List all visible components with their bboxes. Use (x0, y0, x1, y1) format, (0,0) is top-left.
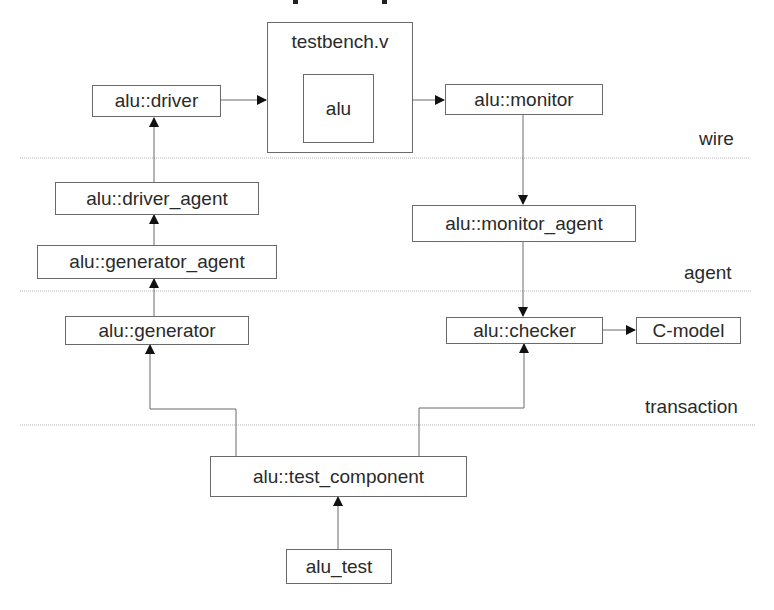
edge-testcomponent-generator (150, 345, 236, 456)
driver-agent-box: alu::driver_agent (55, 182, 259, 215)
edge-testcomponent-checker (419, 344, 524, 456)
c-model-label: C-model (653, 320, 725, 342)
generator-agent-box: alu::generator_agent (37, 245, 277, 279)
generator-box: alu::generator (65, 316, 249, 345)
checker-box: alu::checker (446, 317, 603, 344)
alu-test-box: alu_test (286, 549, 392, 584)
alu-label: alu (326, 98, 351, 120)
layer-label-transaction: transaction (645, 396, 738, 418)
test-component-label: alu::test_component (253, 466, 424, 488)
layer-label-agent: agent (684, 262, 732, 284)
monitor-agent-box: alu::monitor_agent (412, 205, 636, 242)
layer-label-wire: wire (699, 128, 734, 150)
driver-box: alu::driver (92, 85, 221, 117)
driver-label: alu::driver (115, 90, 198, 112)
c-model-box: C-model (636, 317, 741, 344)
driver-agent-label: alu::driver_agent (86, 188, 228, 210)
diagram-canvas: testbench.v alu alu::driver alu::monitor… (0, 0, 774, 610)
testbench-label: testbench.v (291, 31, 388, 53)
alu-box: alu (303, 74, 374, 143)
alu-test-label: alu_test (306, 556, 373, 578)
monitor-label: alu::monitor (474, 89, 573, 111)
generator-agent-label: alu::generator_agent (69, 251, 244, 273)
test-component-box: alu::test_component (210, 456, 467, 497)
generator-label: alu::generator (98, 320, 215, 342)
checker-label: alu::checker (473, 320, 575, 342)
monitor-box: alu::monitor (445, 84, 603, 115)
monitor-agent-label: alu::monitor_agent (445, 213, 602, 235)
